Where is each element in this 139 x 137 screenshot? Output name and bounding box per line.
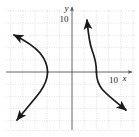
x-tick-label-10: 10 <box>109 75 119 85</box>
curve-horizontal-left-lower <box>17 72 48 120</box>
x-axis-label: x <box>122 73 127 83</box>
curve-horizontal-right-upper <box>87 20 96 72</box>
graph-canvas: y 10 10 x <box>0 0 139 137</box>
y-tick-label-10: 10 <box>60 14 70 24</box>
y-axis-label: y <box>64 3 69 13</box>
grid-lines <box>6 10 136 131</box>
curve-horizontal-left-upper <box>14 35 48 72</box>
hyperbola-curves <box>14 0 126 120</box>
hyperbola-figure: y 10 10 x <box>0 0 139 137</box>
